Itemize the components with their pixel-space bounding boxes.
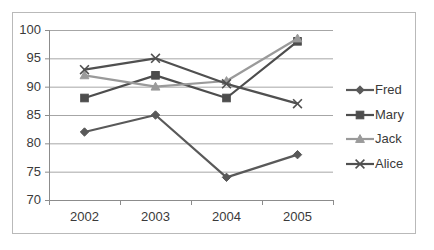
series-line-fred bbox=[85, 115, 298, 177]
legend-label-fred: Fred bbox=[375, 83, 402, 97]
cross-marker-icon bbox=[345, 157, 375, 171]
diamond-marker-icon bbox=[345, 83, 375, 97]
y-tick-label-100: 100 bbox=[7, 22, 41, 37]
x-tick-label-2002: 2002 bbox=[55, 209, 115, 224]
point-fred-2002 bbox=[80, 128, 88, 136]
legend-item-fred[interactable]: Fred bbox=[345, 78, 415, 103]
triangle-marker-icon bbox=[345, 132, 375, 146]
y-tick-label-85: 85 bbox=[7, 107, 41, 122]
legend-item-jack[interactable]: Jack bbox=[345, 127, 415, 152]
y-tick-label-95: 95 bbox=[7, 50, 41, 65]
series-mary bbox=[81, 38, 302, 102]
point-mary-2002 bbox=[81, 94, 89, 102]
point-fred-2005 bbox=[293, 150, 301, 158]
series-line-jack bbox=[85, 39, 298, 87]
legend-item-alice[interactable]: Alice bbox=[345, 152, 415, 177]
chart-legend: FredMaryJackAlice bbox=[345, 78, 415, 176]
legend-label-jack: Jack bbox=[375, 132, 402, 146]
legend-marker bbox=[356, 111, 364, 119]
series-fred bbox=[80, 111, 301, 182]
point-mary-2004 bbox=[223, 94, 231, 102]
axes bbox=[45, 30, 334, 205]
y-tick-label-70: 70 bbox=[7, 192, 41, 207]
legend-item-mary[interactable]: Mary bbox=[345, 103, 415, 128]
x-tick-label-2003: 2003 bbox=[126, 209, 186, 224]
y-tick-label-75: 75 bbox=[7, 164, 41, 179]
y-tick-label-80: 80 bbox=[7, 135, 41, 150]
legend-marker bbox=[356, 86, 364, 94]
x-tick-label-2004: 2004 bbox=[197, 209, 257, 224]
point-mary-2003 bbox=[152, 72, 160, 80]
y-tick-label-90: 90 bbox=[7, 79, 41, 94]
series-jack bbox=[80, 34, 302, 90]
x-tick-label-2005: 2005 bbox=[268, 209, 328, 224]
legend-label-mary: Mary bbox=[375, 108, 404, 122]
series-line-mary bbox=[85, 41, 298, 98]
square-marker-icon bbox=[345, 108, 375, 122]
legend-label-alice: Alice bbox=[375, 157, 403, 171]
gridlines bbox=[49, 31, 333, 201]
